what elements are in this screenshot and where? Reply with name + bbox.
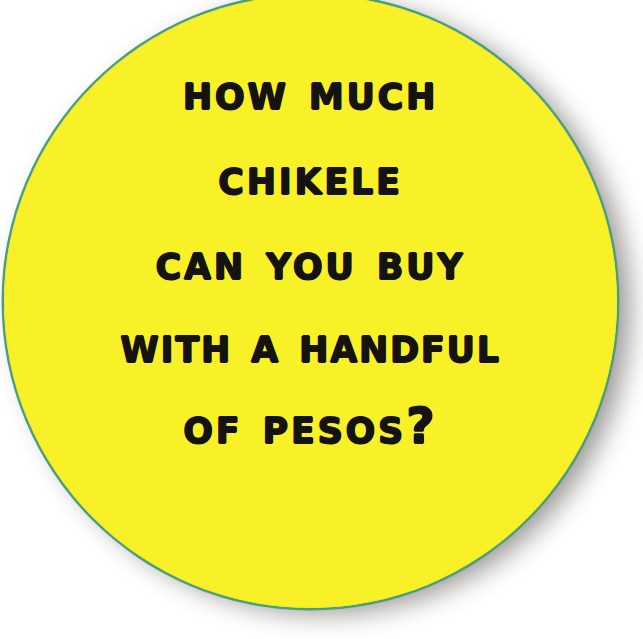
headline-line-4: with a handful — [4, 320, 617, 371]
headline-text-block: How much Chikele can you buy with a hand… — [4, 0, 617, 608]
headline-line-5: of pesos? — [4, 401, 617, 452]
sticker-scene: How much Chikele can you buy with a hand… — [0, 0, 643, 639]
headline-line-2: Chikele — [4, 152, 617, 203]
headline-line-1: How much — [4, 67, 617, 118]
headline-line-3: can you buy — [4, 237, 617, 288]
